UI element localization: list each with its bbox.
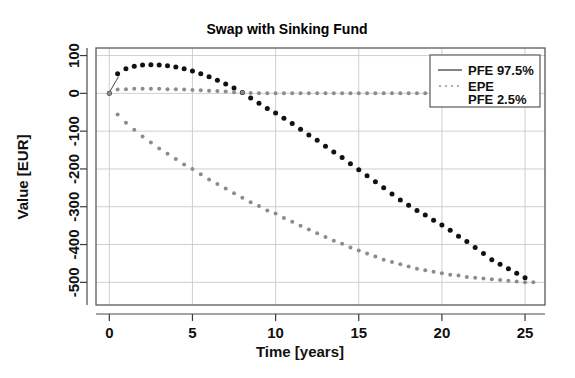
data-point [240,196,244,200]
data-point [506,266,511,271]
data-point [124,87,128,91]
data-point [356,167,361,172]
data-point [123,66,128,71]
data-point [249,91,253,95]
data-point [174,87,178,91]
data-point [141,134,145,138]
data-point [240,91,244,95]
data-point [331,149,336,154]
data-point [415,267,419,271]
data-point [290,220,294,224]
data-point [407,264,411,268]
data-point [457,274,461,278]
data-point [382,258,386,262]
data-point [390,91,394,95]
data-point [207,178,211,182]
data-point [190,88,194,92]
data-point [390,260,394,264]
data-point [373,255,377,259]
data-point [157,63,162,68]
data-point [481,277,485,281]
page-title: Swap with Sinking Fund [207,21,368,37]
data-point [448,273,452,277]
swap-with-sinking-fund-chart: Swap with Sinking Fund 0510152025 1000-1… [0,0,575,378]
data-point [166,152,170,156]
data-point [323,235,327,239]
data-point [265,209,269,213]
data-point [398,197,403,202]
data-point [448,228,453,233]
data-point [149,140,153,144]
data-point [165,63,170,68]
data-point [173,64,178,69]
y-tick-label: -300 [65,192,82,222]
data-point [390,191,395,196]
data-point [439,222,444,227]
data-point [257,204,261,208]
data-point [190,167,194,171]
data-point [182,66,187,71]
data-point [141,87,145,91]
data-point [323,144,328,149]
data-point [365,91,369,95]
data-point [307,227,311,231]
data-point [248,95,253,100]
data-point [515,280,519,284]
legend-item-pfe-25[interactable]: PFE 2.5% [468,92,527,107]
data-point [107,91,111,95]
data-point [340,242,344,246]
data-point [132,64,137,69]
data-point [215,182,219,186]
data-point [116,88,120,92]
data-point [274,212,278,216]
data-point [348,246,352,250]
data-point [514,271,519,276]
data-point [115,71,120,76]
y-tick-label: -100 [65,116,82,146]
data-point [306,132,311,137]
data-point [473,276,477,280]
data-point [465,275,469,279]
data-point [464,239,469,244]
legend-item-pfe-975[interactable]: PFE 97.5% [468,63,534,78]
data-point [124,121,128,125]
data-point [315,138,320,143]
data-point [332,239,336,243]
data-point [198,71,203,76]
data-point [224,187,228,191]
data-point [523,275,528,280]
data-point [365,173,370,178]
data-point [307,91,311,95]
data-point [157,87,161,91]
data-point [423,91,427,95]
data-point [207,89,211,93]
data-point [182,162,186,166]
x-tick-label: 20 [434,324,451,341]
y-tick-label: 0 [65,89,82,97]
data-point [207,74,212,79]
data-point [431,218,436,223]
data-point [414,208,419,213]
data-point [432,270,436,274]
data-point [224,89,228,93]
data-point [407,91,411,95]
data-point [215,78,220,83]
data-point [357,91,361,95]
data-point [132,87,136,91]
data-point [373,179,378,184]
data-point [373,91,377,95]
x-tick-label: 15 [350,324,367,341]
data-point [140,63,145,68]
data-point [315,231,319,235]
chart-legend[interactable]: PFE 97.5% EPE PFE 2.5% [430,55,540,107]
data-point [232,90,236,94]
data-point [273,111,278,116]
data-point [348,91,352,95]
data-point [490,277,494,281]
data-point [498,262,503,267]
data-point [232,191,236,195]
x-axis-title: Time [years] [256,343,344,360]
data-point [332,91,336,95]
data-point [481,251,486,256]
data-point [381,185,386,190]
